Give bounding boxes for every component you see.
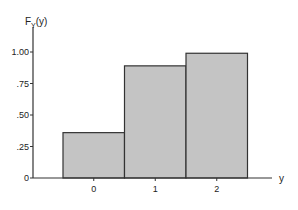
bar-0 xyxy=(63,133,125,178)
x-tick-label: 1 xyxy=(153,184,158,194)
y-tick-label: .25 xyxy=(16,142,29,152)
x-ticks: 012 xyxy=(91,178,219,194)
cdf-bar-chart: 0.25.50.751.00 012 FY(y) y xyxy=(0,0,298,210)
bar-1 xyxy=(125,66,187,178)
y-axis-label: FY(y) xyxy=(25,16,47,29)
y-ticks: 0.25.50.751.00 xyxy=(11,47,33,183)
bars xyxy=(63,53,248,178)
x-tick-label: 0 xyxy=(91,184,96,194)
y-tick-label: 1.00 xyxy=(11,47,29,57)
x-tick-label: 2 xyxy=(214,184,219,194)
y-tick-label: .75 xyxy=(16,79,29,89)
y-tick-label: 0 xyxy=(24,173,29,183)
x-axis-label: y xyxy=(279,173,284,184)
bar-2 xyxy=(186,53,248,178)
y-tick-label: .50 xyxy=(16,110,29,120)
